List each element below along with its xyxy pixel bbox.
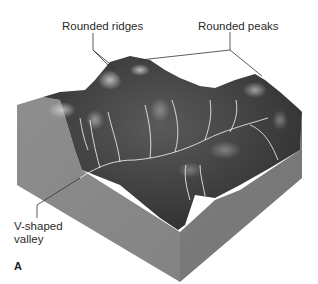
label-v-shaped-valley-line1: V-shaped (14, 220, 63, 233)
label-rounded-ridges: Rounded ridges (62, 20, 143, 33)
label-v-shaped-valley-line2: valley (14, 233, 43, 246)
landscape-diagram: Rounded ridges Rounded peaks V-shaped va… (0, 0, 318, 284)
panel-letter: A (14, 260, 22, 272)
block-diagram-illustration (0, 0, 318, 284)
label-rounded-peaks: Rounded peaks (198, 20, 279, 33)
